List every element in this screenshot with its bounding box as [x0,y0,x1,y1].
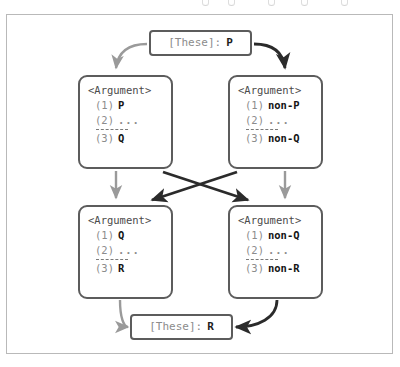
edge-these-p-to-arg-top-right [254,44,285,68]
inference-separator [96,129,128,130]
premise-number: (1) [245,229,264,241]
conclusion-number: (3) [245,262,264,274]
premise-text: ... [118,244,140,256]
premise-number: (2) [95,244,114,256]
argument-title: <Argument> [80,213,171,228]
premise-row: (2)... [230,113,321,128]
conclusion-row: (3)Q [80,131,171,146]
conclusion-row: (3)non-Q [230,131,321,146]
premise-row: (1)P [80,98,171,113]
premise-text: Q [118,229,124,241]
conclusion-text: R [118,262,124,274]
edge-arg-bottom-right-to-these-r [236,300,277,327]
premise-number: (2) [245,114,264,126]
edge-arg-top-left-to-arg-bottom-right [163,172,248,200]
argument-box-bottom-right[interactable]: <Argument> (1)non-Q (2)... (3)non-R [228,205,323,299]
these-value: R [207,320,214,333]
these-label: [These]: [149,320,202,333]
premise-text: ... [118,114,140,126]
argument-box-top-left[interactable]: <Argument> (1)P (2)... (3)Q [78,75,173,169]
conclusion-number: (3) [95,132,114,144]
edge-arg-bottom-left-to-these-r [120,300,128,327]
edge-these-p-to-arg-top-left [116,44,147,68]
premise-number: (2) [95,114,114,126]
premise-text: ... [268,114,290,126]
premise-text: ... [268,244,290,256]
inference-separator [246,259,278,260]
these-premises-node-p[interactable]: [These]:P [149,30,252,56]
inference-separator [246,129,278,130]
premise-row: (1)non-P [230,98,321,113]
premise-number: (1) [95,229,114,241]
argument-title: <Argument> [230,83,321,98]
premise-number: (1) [95,99,114,111]
argument-title: <Argument> [230,213,321,228]
argument-title: <Argument> [80,83,171,98]
conclusion-number: (3) [245,132,264,144]
premise-row: (2)... [230,243,321,258]
edge-arg-top-right-to-arg-bottom-left [152,172,237,200]
conclusion-row: (3)R [80,261,171,276]
diagram-page: [These]:P <Argument> (1)P (2)... (3)Q <A… [0,0,400,367]
premise-row: (1)Q [80,228,171,243]
conclusion-text: Q [118,132,124,144]
inference-separator [96,259,128,260]
conclusion-number: (3) [95,262,114,274]
premise-number: (2) [245,244,264,256]
these-label: [These]: [168,36,221,49]
these-value: P [226,36,233,49]
premise-text: non-Q [268,229,300,241]
these-conclusions-node-r[interactable]: [These]:R [130,314,233,340]
conclusion-text: non-R [268,262,300,274]
argument-box-top-right[interactable]: <Argument> (1)non-P (2)... (3)non-Q [228,75,323,169]
premise-text: P [118,99,124,111]
conclusion-text: non-Q [268,132,300,144]
premise-number: (1) [245,99,264,111]
premise-row: (2)... [80,243,171,258]
premise-text: non-P [268,99,300,111]
argument-box-bottom-left[interactable]: <Argument> (1)Q (2)... (3)R [78,205,173,299]
premise-row: (1)non-Q [230,228,321,243]
conclusion-row: (3)non-R [230,261,321,276]
premise-row: (2)... [80,113,171,128]
